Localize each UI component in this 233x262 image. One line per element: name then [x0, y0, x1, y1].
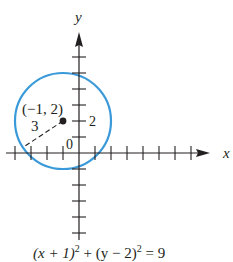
x-axis-label: x — [222, 145, 230, 161]
origin-label: 0 — [66, 137, 73, 152]
y-axis-arrow-icon — [75, 32, 83, 47]
radius-label: 3 — [31, 118, 39, 134]
circle-graph: y x 0 2 (−1, 2) 3 (x + 1)2 + (y − 2)2 = … — [0, 0, 233, 262]
y-tick-label-2: 2 — [89, 114, 96, 129]
center-label: (−1, 2) — [22, 101, 63, 118]
y-axis-label: y — [73, 9, 82, 25]
x-axis-arrow-icon — [196, 149, 210, 157]
equation-label: (x + 1)2 + (y − 2)2 = 9 — [33, 243, 165, 262]
center-point — [60, 118, 67, 125]
